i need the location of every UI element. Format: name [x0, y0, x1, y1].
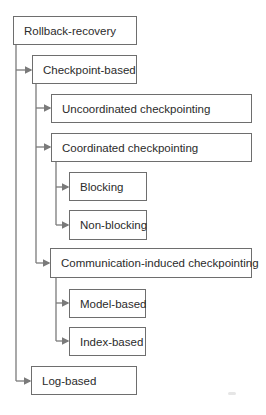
node-checkpoint-based: Checkpoint-based: [32, 55, 137, 84]
rollback-recovery-taxonomy-diagram: Rollback-recovery Checkpoint-based Uncoo…: [0, 0, 266, 415]
node-label: Checkpoint-based: [43, 64, 136, 76]
node-uncoordinated-checkpointing: Uncoordinated checkpointing: [51, 94, 252, 123]
node-log-based: Log-based: [31, 366, 137, 395]
node-label: Communication-induced checkpointing: [61, 257, 259, 269]
node-blocking: Blocking: [69, 172, 147, 201]
node-label: Index-based: [80, 336, 143, 348]
node-label: Rollback-recovery: [24, 25, 116, 37]
node-label: Coordinated checkpointing: [62, 142, 198, 154]
node-label: Blocking: [80, 181, 123, 193]
node-non-blocking: Non-blocking: [69, 210, 147, 240]
node-label: Model-based: [80, 298, 146, 310]
node-label: Non-blocking: [80, 219, 147, 231]
node-label: Uncoordinated checkpointing: [62, 103, 210, 115]
node-rollback-recovery: Rollback-recovery: [13, 16, 137, 45]
node-communication-induced-checkpointing: Communication-induced checkpointing: [50, 248, 252, 278]
node-label: Log-based: [42, 375, 96, 387]
node-model-based: Model-based: [69, 289, 146, 318]
node-coordinated-checkpointing: Coordinated checkpointing: [51, 133, 252, 162]
watermark-mark: [228, 392, 236, 395]
node-index-based: Index-based: [69, 327, 146, 356]
